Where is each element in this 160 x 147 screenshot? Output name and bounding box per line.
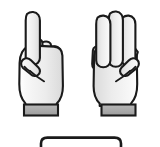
right-hand-group <box>92 11 139 115</box>
right-hand-cuff <box>102 105 136 116</box>
left-hand-index-extended <box>26 12 40 65</box>
left-hand-cuff <box>24 105 58 116</box>
illustration-canvas: Counting hands gesture <box>0 0 160 147</box>
hands-illustration-svg <box>0 0 160 147</box>
right-hand-index-extended <box>96 16 110 68</box>
